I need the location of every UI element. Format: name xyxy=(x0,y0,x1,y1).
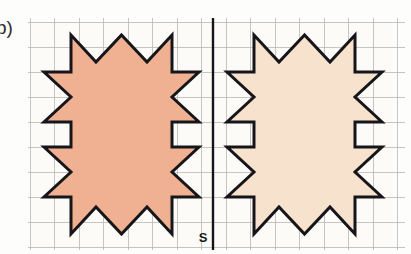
figure-root: b) xyxy=(0,0,411,254)
symmetry-figure-svg: S xyxy=(0,0,411,254)
symmetry-axis-label: S xyxy=(199,230,208,245)
